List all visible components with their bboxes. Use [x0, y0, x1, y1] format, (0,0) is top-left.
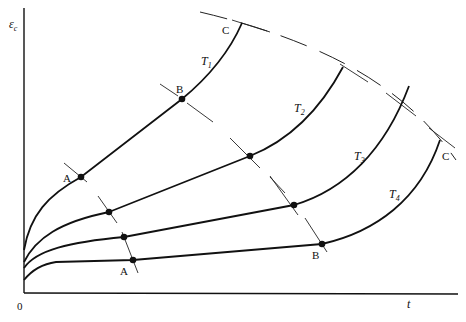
point-b-t3 — [291, 202, 298, 209]
point-a-t1 — [78, 174, 85, 181]
c-end-tick-t4 — [429, 128, 455, 148]
point-b-t2 — [247, 153, 254, 160]
point-b-t1 — [179, 96, 186, 103]
point-a-t2 — [106, 209, 113, 216]
curve-t4 — [24, 140, 440, 280]
c-boundary-dashed — [200, 12, 456, 160]
label-t2: T2 — [294, 101, 305, 117]
curve-t1 — [24, 23, 242, 250]
label-c-t1: C — [222, 24, 229, 36]
y-axis-label: εc — [9, 17, 18, 33]
point-a-t3 — [121, 234, 128, 241]
label-b-t4: B — [312, 249, 319, 261]
label-t3: T3 — [354, 149, 365, 165]
b-boundary-tick-t1-b — [187, 103, 213, 122]
origin-label: 0 — [17, 300, 23, 312]
label-a-t1: A — [63, 172, 71, 184]
point-b-t4 — [319, 241, 326, 248]
label-a-t4: A — [120, 265, 128, 277]
creep-curves-diagram: εc t 0 A B C A B C T1 T2 T3 T4 — [0, 0, 466, 322]
point-a-t4 — [130, 257, 137, 264]
label-b-t1: B — [176, 83, 183, 95]
label-c-t4: C — [442, 150, 449, 162]
x-axis-label: t — [407, 297, 411, 311]
label-t4: T4 — [389, 187, 400, 203]
c-end-tick-t2 — [340, 64, 368, 82]
x-axis — [24, 293, 458, 294]
b-boundary-tick-t4 — [305, 218, 327, 252]
label-t1: T1 — [201, 54, 212, 70]
